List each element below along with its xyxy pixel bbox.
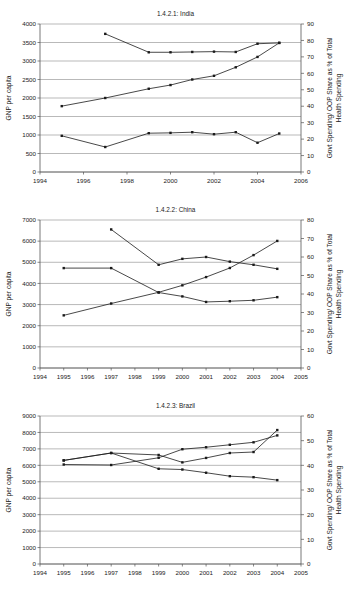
data-point-marker bbox=[181, 258, 183, 260]
y-axis-label: GNP per capita bbox=[5, 271, 13, 316]
secondary-y-axis-tick-label: 20 bbox=[307, 511, 314, 518]
series-line-1 bbox=[105, 34, 279, 52]
data-point-marker bbox=[278, 132, 280, 134]
data-point-marker bbox=[191, 51, 193, 53]
secondary-y-axis-tick-label: 10 bbox=[307, 152, 314, 159]
x-axis-tick-label: 1998 bbox=[128, 569, 142, 576]
data-point-marker bbox=[213, 75, 215, 77]
series-line-0 bbox=[64, 435, 278, 465]
data-point-marker bbox=[235, 66, 237, 68]
chart-title: 1.4.2.2: China bbox=[156, 206, 196, 213]
y-axis-tick-label: 3000 bbox=[22, 511, 36, 518]
secondary-y-axis-tick-label: 30 bbox=[307, 486, 314, 493]
x-axis-tick-label: 2003 bbox=[247, 569, 261, 576]
data-point-marker bbox=[278, 42, 280, 44]
data-point-marker bbox=[104, 146, 106, 148]
x-axis-tick-label: 1995 bbox=[57, 569, 71, 576]
secondary-y-axis-tick-label: 70 bbox=[307, 235, 314, 242]
data-point-marker bbox=[157, 457, 159, 459]
data-point-marker bbox=[235, 51, 237, 53]
data-point-marker bbox=[110, 228, 112, 230]
x-axis-tick-label: 2000 bbox=[164, 177, 178, 184]
data-point-marker bbox=[276, 268, 278, 270]
y-axis-tick-label: 0 bbox=[33, 560, 37, 567]
secondary-y-axis-tick-label: 40 bbox=[307, 102, 314, 109]
y-axis-tick-label: 9000 bbox=[22, 412, 36, 419]
y-axis-tick-label: 3000 bbox=[22, 301, 36, 308]
secondary-y-axis-tick-label: 90 bbox=[307, 20, 314, 27]
data-point-marker bbox=[205, 276, 207, 278]
data-point-marker bbox=[157, 468, 159, 470]
data-point-marker bbox=[157, 454, 159, 456]
data-point-marker bbox=[148, 132, 150, 134]
data-point-marker bbox=[205, 446, 207, 448]
data-point-marker bbox=[213, 50, 215, 52]
chart-title: 1.4.2.1: India bbox=[157, 10, 194, 17]
data-point-marker bbox=[169, 132, 171, 134]
data-point-marker bbox=[181, 461, 183, 463]
data-point-marker bbox=[252, 254, 254, 256]
data-point-marker bbox=[63, 463, 65, 465]
data-point-marker bbox=[63, 459, 65, 461]
y-axis-tick-label: 4000 bbox=[22, 494, 36, 501]
y-axis-tick-label: 4000 bbox=[22, 280, 36, 287]
secondary-y-axis-tick-label: 20 bbox=[307, 327, 314, 334]
x-axis-tick-label: 1996 bbox=[81, 569, 95, 576]
y-axis-label: GNP per capita bbox=[5, 75, 13, 120]
y-axis-tick-label: 7000 bbox=[22, 216, 36, 223]
data-point-marker bbox=[191, 131, 193, 133]
figure-page: 1.4.2.1: India05001000150020002500300035… bbox=[0, 0, 351, 590]
secondary-y-axis-label: Govt Spending/ OOP Share as % of TotalHe… bbox=[326, 37, 343, 158]
data-point-marker bbox=[205, 457, 207, 459]
series-line-0 bbox=[64, 241, 278, 315]
x-axis-tick-label: 1994 bbox=[33, 177, 47, 184]
chart-brazil: 1.4.2.3: Brazil0100020003000400050006000… bbox=[0, 392, 351, 588]
data-point-marker bbox=[110, 464, 112, 466]
secondary-y-axis-tick-label: 60 bbox=[307, 412, 314, 419]
secondary-y-axis-tick-label: 50 bbox=[307, 86, 314, 93]
x-axis-tick-label: 2001 bbox=[199, 373, 213, 380]
data-point-marker bbox=[276, 434, 278, 436]
x-axis-tick-label: 1999 bbox=[152, 373, 166, 380]
secondary-y-axis-tick-label: 0 bbox=[307, 364, 311, 371]
x-axis-tick-label: 2001 bbox=[199, 569, 213, 576]
data-point-marker bbox=[63, 314, 65, 316]
secondary-y-axis-tick-label: 80 bbox=[307, 216, 314, 223]
secondary-y-axis-tick-label: 80 bbox=[307, 37, 314, 44]
x-axis-tick-label: 1996 bbox=[81, 373, 95, 380]
y-axis-tick-label: 2000 bbox=[22, 94, 36, 101]
data-point-marker bbox=[276, 429, 278, 431]
data-point-marker bbox=[104, 97, 106, 99]
chart-india: 1.4.2.1: India05001000150020002500300035… bbox=[0, 0, 351, 196]
x-axis-tick-label: 2000 bbox=[175, 569, 189, 576]
y-axis-tick-label: 1500 bbox=[22, 113, 36, 120]
x-axis-tick-label: 2006 bbox=[294, 177, 308, 184]
secondary-y-axis-tick-label: 60 bbox=[307, 70, 314, 77]
series-line-2 bbox=[64, 453, 278, 480]
x-axis-tick-label: 1999 bbox=[152, 569, 166, 576]
secondary-y-axis-tick-label: 50 bbox=[307, 437, 314, 444]
data-point-marker bbox=[169, 51, 171, 53]
chart-china: 1.4.2.2: China01000200030004000500060007… bbox=[0, 196, 351, 392]
y-axis-tick-label: 2000 bbox=[22, 322, 36, 329]
data-point-marker bbox=[229, 444, 231, 446]
secondary-y-axis-tick-label: 30 bbox=[307, 309, 314, 316]
svg-text:Health Spending: Health Spending bbox=[335, 73, 343, 122]
y-axis-tick-label: 4000 bbox=[22, 20, 36, 27]
data-point-marker bbox=[110, 452, 112, 454]
y-axis-label: GNP per capita bbox=[5, 467, 13, 512]
secondary-y-axis-tick-label: 40 bbox=[307, 462, 314, 469]
data-point-marker bbox=[110, 267, 112, 269]
svg-text:Govt Spending/ OOP Share as %: Govt Spending/ OOP Share as % of Total bbox=[326, 37, 334, 158]
data-point-marker bbox=[252, 451, 254, 453]
x-axis-tick-label: 1998 bbox=[128, 373, 142, 380]
x-axis-tick-label: 2002 bbox=[207, 177, 221, 184]
data-point-marker bbox=[110, 302, 112, 304]
svg-text:Health Spending: Health Spending bbox=[335, 465, 343, 514]
data-point-marker bbox=[61, 135, 63, 137]
x-axis-tick-label: 2004 bbox=[270, 569, 284, 576]
secondary-y-axis-tick-label: 0 bbox=[307, 560, 311, 567]
data-point-marker bbox=[252, 264, 254, 266]
x-axis-tick-label: 2002 bbox=[223, 373, 237, 380]
data-point-marker bbox=[229, 300, 231, 302]
